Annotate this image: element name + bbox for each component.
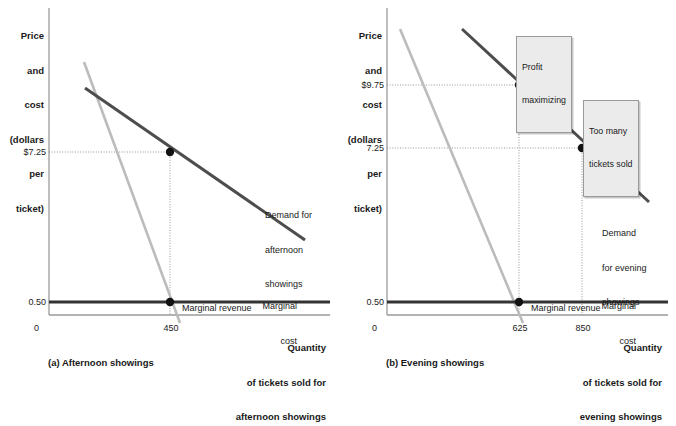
x-tick-label-625-evening: 625 (506, 323, 534, 334)
y-tick-label-725-afternoon: $7.25 (3, 147, 46, 158)
y-tick-label-050-afternoon: 0.50 (3, 297, 46, 308)
x-axis-title-afternoon: Quantity of tickets sold for afternoon s… (205, 319, 326, 426)
panel-caption-evening: (b) Evening showings (386, 357, 484, 368)
y-axis-title-afternoon: Price and cost (dollars per ticket) (0, 7, 44, 237)
x-tick-label-450-afternoon: 450 (157, 323, 185, 334)
origin-label-afternoon: 0 (34, 323, 39, 334)
panel-afternoon: Price and cost (dollars per ticket) $7.2… (0, 0, 338, 377)
demand-point-afternoon (166, 148, 174, 156)
marginal-revenue-label-evening: Marginal revenue (531, 303, 601, 315)
x-axis-title-evening: Quantity of tickets sold for evening sho… (541, 319, 662, 426)
y-tick-label-050-evening: 0.50 (341, 297, 384, 308)
origin-label-evening: 0 (372, 323, 377, 334)
marginal-revenue-curve-afternoon (84, 62, 180, 323)
marginal-revenue-label-afternoon: Marginal revenue (182, 303, 252, 315)
y-tick-label-725-evening: 7.25 (341, 143, 384, 154)
mr-mc-point-evening (515, 298, 523, 306)
y-tick-label-975-evening: $9.75 (341, 80, 384, 91)
marginal-revenue-curve-evening (400, 29, 523, 323)
panel-caption-afternoon: (a) Afternoon showings (48, 357, 154, 368)
panel-evening: Price and cost (dollars per ticket) $9.7… (338, 0, 676, 377)
y-axis-title-evening: Price and cost (dollars per ticket) (338, 7, 382, 237)
mr-mc-point-afternoon (166, 298, 174, 306)
callout-too-many-tickets-sold: Too many tickets sold (583, 100, 639, 197)
callout-profit-maximizing: Profit maximizing (516, 36, 572, 133)
